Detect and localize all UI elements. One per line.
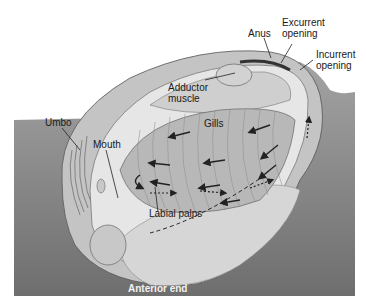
label-mouth: Mouth: [93, 139, 121, 150]
label-adductor-line2: muscle: [168, 93, 208, 104]
label-incurrent-opening: Incurrent opening: [316, 49, 355, 71]
label-labial-palps: Labial palps: [149, 208, 202, 219]
label-umbo: Umbo: [45, 117, 72, 128]
label-anus: Anus: [248, 28, 271, 39]
label-gills: Gills: [204, 118, 223, 129]
label-incurrent-line2: opening: [316, 60, 355, 71]
label-excurrent-line2: opening: [282, 28, 325, 39]
label-adductor-muscle: Adductor muscle: [168, 82, 208, 104]
label-anterior-end: Anterior end: [128, 283, 187, 294]
label-adductor-line1: Adductor: [168, 82, 208, 93]
label-excurrent-opening: Excurrent opening: [282, 17, 325, 39]
label-excurrent-line1: Excurrent: [282, 17, 325, 28]
clam-diagram: [0, 0, 366, 308]
adductor-muscle: [216, 64, 252, 86]
label-incurrent-line1: Incurrent: [316, 49, 355, 60]
anterior-adductor: [90, 225, 126, 265]
